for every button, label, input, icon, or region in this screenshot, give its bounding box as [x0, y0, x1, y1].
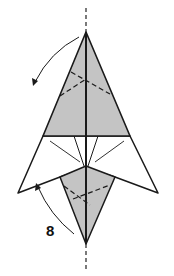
step-number: 8 [46, 222, 54, 239]
origami-diagram [0, 0, 174, 276]
arrow-head [32, 78, 38, 86]
lower-kite [60, 166, 115, 244]
